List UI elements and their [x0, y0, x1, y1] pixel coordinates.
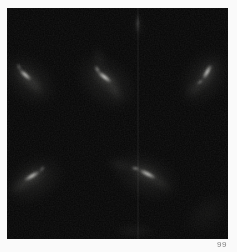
upper-right-arc-core	[195, 77, 205, 86]
upper-right-arc-core	[199, 61, 215, 83]
top-edge-streak-core	[137, 10, 140, 36]
bottom-left-arc-glow	[7, 134, 85, 227]
top-center-arc-core	[92, 63, 101, 75]
bottom-left-arc-core	[20, 167, 44, 185]
bottom-center-arc-glow	[148, 172, 177, 196]
upper-left-arc-core	[15, 66, 34, 84]
micrograph-image	[7, 8, 228, 239]
upper-right-arc-glow	[180, 74, 210, 102]
top-center-arc-core	[93, 68, 115, 87]
top-center-arc-glow	[89, 40, 109, 76]
upper-left-arc-core	[15, 62, 23, 73]
page-number-label: 99	[217, 240, 227, 249]
bottom-right-haze-glow	[166, 173, 228, 239]
bottom-edge-haze-glow	[105, 221, 165, 239]
upper-left-arc-glow	[7, 30, 80, 130]
bottom-left-arc-core	[37, 164, 47, 174]
upper-left-arc-glow	[7, 55, 48, 97]
upper-right-arc-glow	[156, 27, 228, 130]
upper-left-arc-glow	[22, 71, 50, 101]
top-center-arc-glow	[50, 28, 162, 136]
bottom-center-arc-glow	[122, 155, 173, 193]
bottom-center-arc-glow	[99, 154, 141, 175]
vertical-seam	[137, 8, 139, 239]
bottom-center-arc-glow	[89, 129, 200, 224]
bottom-center-arc-core	[129, 165, 141, 171]
streak-layer	[7, 8, 228, 239]
top-edge-streak-glow	[133, 8, 143, 44]
bottom-left-arc-glow	[7, 175, 36, 197]
top-center-arc-glow	[81, 57, 128, 100]
page: 99	[0, 0, 237, 252]
bottom-left-arc-glow	[8, 157, 57, 196]
upper-right-arc-glow	[189, 51, 226, 98]
top-center-arc-glow	[102, 76, 128, 107]
bottom-center-arc-core	[135, 166, 160, 183]
